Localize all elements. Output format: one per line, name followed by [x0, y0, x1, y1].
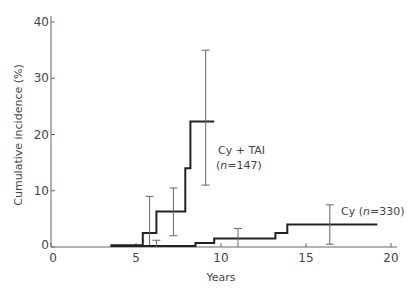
x-tick-label: 10	[213, 251, 228, 265]
series-line-cy-tai	[111, 122, 215, 246]
y-tick-label: 40	[34, 15, 49, 29]
y-tick-label: 0	[41, 238, 49, 252]
svg-text:(n=147): (n=147)	[216, 159, 262, 172]
error-bar	[146, 196, 154, 247]
y-axis-label: Cumulative incidence (%)	[12, 64, 25, 205]
x-axis-label: Years	[205, 271, 235, 284]
y-tick-label: 30	[34, 71, 49, 85]
y-tick-label: 10	[34, 184, 49, 198]
x-tick-label: 5	[132, 251, 140, 265]
x-tick-label: 15	[298, 251, 313, 265]
axes: 05101520010203040	[34, 15, 399, 265]
error-bar	[202, 50, 210, 185]
cumulative-incidence-chart: 05101520010203040 Years Cumulative incid…	[0, 0, 411, 291]
x-tick-label: 0	[49, 251, 57, 265]
x-tick-label: 20	[383, 251, 398, 265]
svg-text:Cy (n=330): Cy (n=330)	[341, 205, 404, 218]
legend-cy-tai: Cy + TAI (n=147)	[216, 144, 265, 172]
series-line-cy	[111, 225, 378, 246]
legend-cy: Cy (n=330)	[341, 205, 404, 218]
svg-text:Cy + TAI: Cy + TAI	[218, 144, 265, 157]
y-tick-label: 20	[34, 128, 49, 142]
